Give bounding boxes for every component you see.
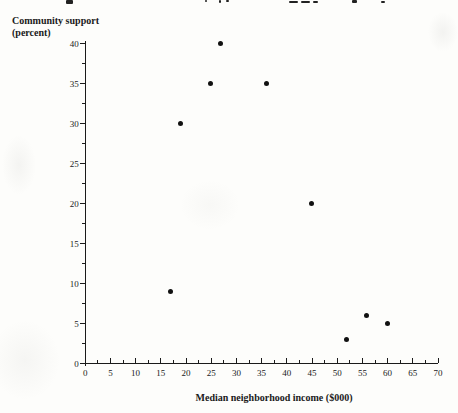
x-minor-tick	[349, 360, 350, 363]
x-minor-tick	[299, 360, 300, 363]
y-tick-label: 25	[43, 159, 79, 169]
y-axis-title-line1: Community support	[12, 15, 99, 27]
y-major-tick	[80, 83, 85, 84]
y-minor-tick	[82, 183, 85, 184]
y-minor-tick	[82, 343, 85, 344]
scan-smudge	[2, 135, 36, 195]
y-axis-title-line2: (percent)	[12, 27, 99, 39]
clipped-text-fragment	[205, 0, 207, 2]
x-major-tick	[387, 358, 388, 363]
x-major-tick	[261, 358, 262, 363]
clipped-text-fragment	[226, 0, 229, 2]
x-major-tick	[412, 358, 413, 363]
x-minor-tick	[223, 360, 224, 363]
clipped-text-fragment	[301, 1, 310, 3]
x-major-tick	[135, 358, 136, 363]
y-major-tick	[80, 123, 85, 124]
x-major-tick	[186, 358, 187, 363]
y-minor-tick	[82, 303, 85, 304]
x-major-tick	[236, 358, 237, 363]
data-point	[178, 121, 183, 126]
y-axis-title: Community support (percent)	[12, 15, 99, 38]
x-minor-tick	[148, 360, 149, 363]
y-minor-tick	[82, 263, 85, 264]
y-major-tick	[80, 243, 85, 244]
clipped-text-fragment	[289, 1, 298, 3]
data-point	[264, 81, 269, 86]
y-tick-label: 40	[43, 39, 79, 49]
clipped-text-fragment	[219, 0, 221, 3]
x-major-tick	[312, 358, 313, 363]
x-minor-tick	[274, 360, 275, 363]
x-major-tick	[110, 358, 111, 363]
x-axis-title: Median neighborhood income ($000)	[124, 392, 424, 403]
scan-smudge	[180, 180, 240, 230]
data-point	[218, 41, 223, 46]
y-major-tick	[80, 43, 85, 44]
y-tick-label: 20	[43, 199, 79, 209]
y-minor-tick	[82, 63, 85, 64]
x-minor-tick	[425, 360, 426, 363]
x-major-tick	[286, 358, 287, 363]
y-minor-tick	[82, 223, 85, 224]
data-point	[168, 289, 173, 294]
data-point	[309, 201, 314, 206]
y-major-tick	[80, 163, 85, 164]
scatter-plot-figure: Community support (percent) 051015202530…	[0, 0, 458, 413]
x-axis-line	[85, 363, 439, 364]
clipped-text-fragment	[352, 0, 357, 3]
x-minor-tick	[198, 360, 199, 363]
y-tick-label: 5	[43, 319, 79, 329]
x-major-tick	[85, 358, 86, 363]
x-minor-tick	[375, 360, 376, 363]
y-tick-label: 15	[43, 239, 79, 249]
clipped-text-fragment	[66, 0, 73, 4]
data-point	[344, 337, 349, 342]
y-minor-tick	[82, 103, 85, 104]
y-tick-label: 0	[43, 359, 79, 369]
clipped-text-fragment	[313, 1, 318, 3]
scan-smudge	[428, 12, 458, 52]
x-minor-tick	[324, 360, 325, 363]
y-tick-label: 10	[43, 279, 79, 289]
x-major-tick	[211, 358, 212, 363]
x-major-tick	[160, 358, 161, 363]
x-minor-tick	[173, 360, 174, 363]
y-axis-line	[85, 41, 86, 366]
x-minor-tick	[249, 360, 250, 363]
y-major-tick	[80, 363, 85, 364]
x-minor-tick	[400, 360, 401, 363]
x-minor-tick	[123, 360, 124, 363]
x-major-tick	[438, 358, 439, 363]
y-major-tick	[80, 323, 85, 324]
x-tick-label: 70	[423, 368, 453, 378]
x-major-tick	[362, 358, 363, 363]
data-point	[208, 81, 213, 86]
y-major-tick	[80, 283, 85, 284]
y-minor-tick	[82, 143, 85, 144]
y-major-tick	[80, 203, 85, 204]
x-minor-tick	[97, 360, 98, 363]
data-point	[385, 321, 390, 326]
y-tick-label: 35	[43, 79, 79, 89]
data-point	[364, 313, 369, 318]
clipped-text-fragment	[381, 1, 385, 3]
y-tick-label: 30	[43, 119, 79, 129]
x-major-tick	[337, 358, 338, 363]
